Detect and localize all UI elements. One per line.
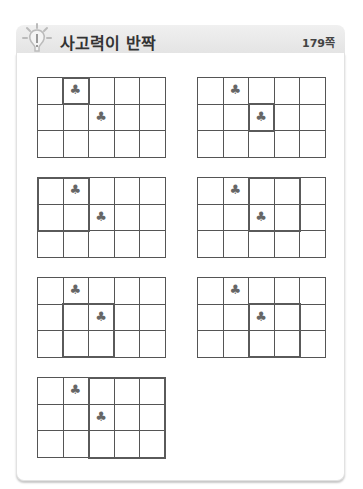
grid-cell xyxy=(88,77,115,105)
club-icon: ♣ xyxy=(63,377,89,404)
puzzle-grid: ♣♣ xyxy=(37,377,165,457)
highlight-square xyxy=(88,377,167,459)
grid-cell xyxy=(197,77,224,105)
lightbulb-icon xyxy=(22,22,52,56)
grid-cell xyxy=(139,130,166,158)
club-icon: ♣ xyxy=(223,277,249,304)
page-reference: 179쪽 xyxy=(302,34,335,50)
grid-cell xyxy=(274,130,301,158)
grid-cell xyxy=(139,277,166,305)
grid-cell xyxy=(274,230,301,258)
grid-cell xyxy=(299,330,326,358)
club-icon: ♣ xyxy=(88,204,114,231)
grid-cell xyxy=(299,277,326,305)
grid-cell xyxy=(37,104,64,132)
grid-cell xyxy=(37,230,64,258)
grid-cell xyxy=(299,204,326,232)
puzzle-grid: ♣♣ xyxy=(197,77,325,157)
club-icon: ♣ xyxy=(223,77,249,104)
grid-cell xyxy=(37,430,64,458)
grid-cell xyxy=(299,130,326,158)
puzzle-grid: ♣♣ xyxy=(197,177,325,257)
grid-cell xyxy=(274,104,301,132)
highlight-square xyxy=(37,177,90,232)
puzzle-grid: ♣♣ xyxy=(37,77,165,157)
grid-cell xyxy=(274,77,301,105)
grid-cell xyxy=(274,277,301,305)
grid-cell xyxy=(139,177,166,205)
grid-cell xyxy=(63,230,90,258)
grid-cell xyxy=(114,77,141,105)
grid-cell xyxy=(37,277,64,305)
grid-cell xyxy=(139,330,166,358)
grid-cell xyxy=(37,130,64,158)
grid-cell xyxy=(223,230,250,258)
grid-cell xyxy=(197,277,224,305)
grid-cell xyxy=(114,277,141,305)
grid-cell xyxy=(88,230,115,258)
grid-cell xyxy=(114,304,141,332)
grid-cell xyxy=(114,230,141,258)
grid-cell xyxy=(37,304,64,332)
club-icon: ♣ xyxy=(223,177,249,204)
grid-cell xyxy=(63,430,90,458)
grid-cell xyxy=(223,104,250,132)
grid-cell xyxy=(88,177,115,205)
grid-cell xyxy=(223,304,250,332)
grid-cell xyxy=(299,230,326,258)
highlight-square xyxy=(248,303,301,358)
section-title: 사고력이 반짝 xyxy=(60,30,156,54)
grid-cell xyxy=(197,177,224,205)
grid-cell xyxy=(63,104,90,132)
club-icon: ♣ xyxy=(88,104,114,131)
grid-cell xyxy=(139,230,166,258)
grid-cell xyxy=(197,104,224,132)
grid-cell xyxy=(299,304,326,332)
grid-cell xyxy=(88,277,115,305)
grid-cell xyxy=(299,177,326,205)
grid-cell xyxy=(37,377,64,405)
grid-cell xyxy=(139,104,166,132)
grid-cell xyxy=(114,104,141,132)
grid-cell xyxy=(248,230,275,258)
grid-cell xyxy=(139,204,166,232)
grid-cell xyxy=(299,77,326,105)
grid-cell xyxy=(197,230,224,258)
grid-cell xyxy=(37,404,64,432)
grid-cell xyxy=(114,330,141,358)
grid-cell xyxy=(88,130,115,158)
grid-cell xyxy=(197,130,224,158)
highlight-square xyxy=(62,77,90,106)
grid-cell xyxy=(37,330,64,358)
grid-cell xyxy=(223,130,250,158)
highlight-square xyxy=(62,303,115,358)
puzzle-grid: ♣♣ xyxy=(197,277,325,357)
grid-cell xyxy=(223,330,250,358)
grid-cell xyxy=(114,177,141,205)
puzzle-grid: ♣♣ xyxy=(37,277,165,357)
grid-cell xyxy=(197,204,224,232)
grid-cell xyxy=(37,77,64,105)
grid-cell xyxy=(248,77,275,105)
grid-cell xyxy=(197,304,224,332)
grid-cell xyxy=(114,204,141,232)
grid-cell xyxy=(139,304,166,332)
grid-cell xyxy=(248,130,275,158)
grid-cell xyxy=(139,77,166,105)
grid-cell xyxy=(299,104,326,132)
highlight-square xyxy=(248,177,301,232)
grid-cell xyxy=(248,277,275,305)
club-icon: ♣ xyxy=(63,277,89,304)
grid-cell xyxy=(114,130,141,158)
grid-cell xyxy=(63,404,90,432)
puzzle-grid: ♣♣ xyxy=(37,177,165,257)
grid-cell xyxy=(63,130,90,158)
grid-cell xyxy=(197,330,224,358)
highlight-square xyxy=(248,103,276,132)
grid-cell xyxy=(223,204,250,232)
